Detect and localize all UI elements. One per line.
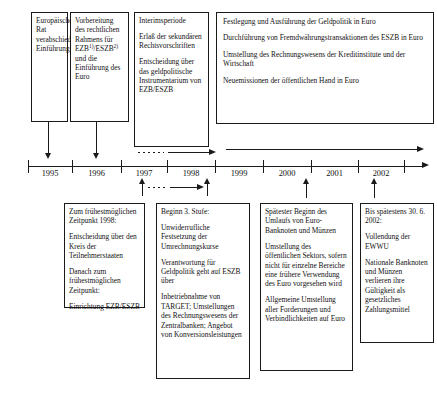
arrow-up-bottom4 (371, 178, 377, 184)
axis-year-2001: 2001 (311, 168, 358, 179)
bottom-box-1-text-2: Danach zum frühestmöglichen Zeitpunkt: (69, 267, 140, 295)
connector-line-box2 (96, 122, 97, 155)
timeline-axis-arrowhead (422, 162, 429, 168)
top-box-3-text-2: Entscheidung über das geldpolitische Ins… (139, 57, 204, 95)
bottom-box-4-text-2: Nationale Banknoten und Münzen verlieren… (365, 258, 429, 314)
arrow-down-box2 (93, 153, 99, 159)
top-box-1: Europäischer Rat verabschiedet Einführun… (31, 12, 68, 122)
bottom-box-2-heading: Beginn 3. Stufe: (161, 207, 245, 216)
top-box-3: Interimsperiode Erlaß der sekundären Rec… (134, 12, 209, 147)
bottom-box-2-text-3: Inbetriebnahme von TARGET; Umstellungen … (161, 292, 245, 339)
connector-line-bottom3 (306, 184, 307, 198)
top-box-3-heading: Interimsperiode (139, 16, 204, 25)
euro-period-arrowhead (417, 146, 424, 152)
top-box-4-text-4: Neuemissionen der öffentlichen Hand in E… (223, 76, 427, 85)
bottom-box-3-text-1: Umstellung des öffentlichen Sektors, sof… (265, 242, 348, 289)
interim-period-arrowhead (209, 149, 216, 155)
top-box-2: Vorbereitung des rechtlichen Rahmens für… (70, 12, 129, 122)
arrow-up-bottom3 (303, 178, 309, 184)
bottom-box-2-text-1: Unwiderrufliche Festsetzung der Umrechnu… (161, 223, 245, 251)
top-box-2-text: Vorbereitung des rechtlichen Rahmens für… (75, 16, 124, 82)
stage3-arrowhead (197, 184, 204, 190)
stage3-dotted-line (148, 187, 168, 188)
footnote-mark-1: 1) (89, 43, 94, 49)
connector-line-bottom4 (374, 184, 375, 198)
arrow-up-bottom1 (139, 178, 145, 184)
bottom-box-1-heading: Zum frühestmöglichen Zeitpunkt 1998: (69, 207, 140, 226)
axis-year-1999: 1999 (215, 168, 263, 179)
top-box-4: Festlegung und Ausführung der Geldpoliti… (216, 12, 434, 124)
stage3-line (170, 187, 198, 188)
axis-year-2002: 2002 (358, 168, 404, 179)
axis-tick-8 (404, 160, 405, 173)
footnote-mark-2: 2) (114, 43, 119, 49)
top-box-4-text-1: Festlegung und Ausführung der Geldpoliti… (223, 17, 427, 26)
euro-period-line (226, 149, 418, 150)
bottom-box-1-text-3: Einrichtung EZB/ESZB (69, 302, 140, 311)
arrow-down-box1 (45, 153, 51, 159)
bottom-box-3-heading: Spätester Beginn des Umlaufs von Euro-Ba… (265, 207, 348, 235)
top-box-4-text-3: Umstellung des Rechnungswesens der Kredi… (223, 50, 427, 69)
bottom-box-4-heading: Bis spätestens 30. 6. 2002: (365, 207, 429, 226)
interim-period-line (168, 152, 210, 153)
connector-line-bottom2 (207, 184, 208, 196)
connector-line-box1 (48, 122, 49, 155)
top-box-1-text: Europäischer Rat verabschiedet Einführun… (36, 16, 63, 54)
bottom-box-2: Beginn 3. Stufe: Unwiderrufliche Festset… (156, 203, 250, 379)
interim-period-dotted-line (138, 152, 164, 153)
bottom-box-4-text-1: Vollendung der EWWU (365, 232, 429, 251)
bottom-box-1: Zum frühestmöglichen Zeitpunkt 1998: Ent… (64, 203, 145, 308)
bottom-box-2-text-2: Verantwortung für Geldpolitik geht auf E… (161, 258, 245, 286)
connector-line-bottom1 (142, 184, 143, 196)
top-box-3-text-1: Erlaß der sekundären Rechtsvorschriften (139, 32, 204, 51)
timeline-diagram: Europäischer Rat verabschiedet Einführun… (0, 0, 437, 415)
bottom-box-3-text-2: Allgemeine Umstellung aller Forderungen … (265, 295, 348, 323)
axis-year-1995: 1995 (28, 168, 72, 179)
bottom-box-1-text-1: Entscheidung über den Kreis der Teilnehm… (69, 232, 140, 260)
arrow-up-bottom2 (204, 178, 210, 184)
top-box-4-text-2: Durchführung von Fremdwährungstransaktio… (223, 33, 427, 42)
axis-year-1996: 1996 (72, 168, 121, 179)
bottom-box-3: Spätester Beginn des Umlaufs von Euro-Ba… (260, 203, 353, 371)
bottom-box-4: Bis spätestens 30. 6. 2002: Vollendung d… (360, 203, 434, 343)
